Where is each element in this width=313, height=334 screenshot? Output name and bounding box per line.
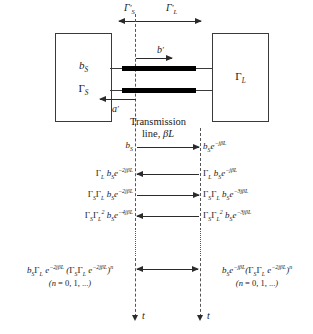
bounce-row-left-label: ΓL bSe−2jβL (25, 167, 133, 180)
load-ellipsis (200, 228, 201, 256)
bounce-row-arrow (137, 216, 199, 217)
transmission-line-caption-line1: Transmission (113, 116, 203, 128)
source-reflection-label: ΓS (79, 78, 89, 101)
general-term-right-arrow (152, 269, 198, 270)
source-time-axis-label: t (142, 310, 145, 321)
b-prime-arrow (136, 58, 172, 59)
a-prime-arrow (100, 99, 136, 100)
source-ellipsis (135, 228, 136, 256)
bounce-row-left-label: ΓSΓL bSe−2jβL (15, 188, 133, 201)
b-prime-label: b′ (157, 44, 164, 55)
source-network-box: bS ΓS (55, 33, 112, 122)
load-time-axis-label: t (207, 310, 210, 321)
transmission-line-caption: Transmission line, βL (113, 116, 203, 140)
top-lead-left (110, 68, 122, 69)
bounce-row-left-label: ΓSΓL2 bSe−4jβL (15, 209, 133, 222)
bottom-conductor (122, 88, 196, 93)
transmission-line-caption-line2: line, βL (113, 128, 203, 140)
bottom-lead-right (196, 90, 212, 91)
a-prime-label: a′ (112, 103, 119, 114)
bounce-row-right-label: bSe−jβL (203, 140, 226, 153)
general-term-left-expression: bSΓL e−2jβL (ΓSΓL e−2jβL)n (6, 263, 134, 278)
load-reflection-label: ΓL (235, 66, 245, 89)
bounce-diagram: Γ′S Γ′L bS ΓS ΓL b′ a′ Transmission lin (0, 0, 313, 334)
general-term-right: bSe−jβL(ΓSΓL e−2jβL)n (n = 0, 1, ...) (202, 263, 312, 289)
top-conductor (122, 66, 196, 71)
load-reference-plane (200, 128, 201, 226)
bounce-row-right-label: ΓSΓL2 bSe−3jβL (203, 209, 251, 222)
reflection-span-arrow (119, 21, 201, 22)
gamma-s-prime-label: Γ′S (124, 2, 135, 15)
source-time-axis-arrow (135, 300, 136, 316)
bounce-row-right-label: ΓL bSe−jβL (203, 167, 237, 180)
general-term-right-expression: bSe−jβL(ΓSΓL e−2jβL)n (202, 263, 312, 278)
bounce-row-arrow (137, 147, 199, 148)
bottom-lead-left (110, 90, 122, 91)
load-network-box: ΓL (212, 33, 269, 122)
bounce-row-left-label: bS (55, 140, 133, 152)
bounce-row-right-label: ΓSΓL bSe−3jβL (203, 188, 248, 201)
general-term-left: bSΓL e−2jβL (ΓSΓL e−2jβL)n (n = 0, 1, ..… (6, 263, 134, 289)
bounce-row-arrow (137, 174, 199, 175)
top-lead-right (196, 68, 212, 69)
source-wave-label: bS (79, 55, 88, 78)
load-time-axis-arrow (200, 300, 201, 316)
bounce-row-arrow (137, 195, 199, 196)
general-term-left-condition: (n = 0, 1, ...) (6, 278, 134, 289)
general-term-right-condition: (n = 0, 1, ...) (202, 278, 312, 289)
gamma-l-prime-label: Γ′L (166, 2, 177, 15)
